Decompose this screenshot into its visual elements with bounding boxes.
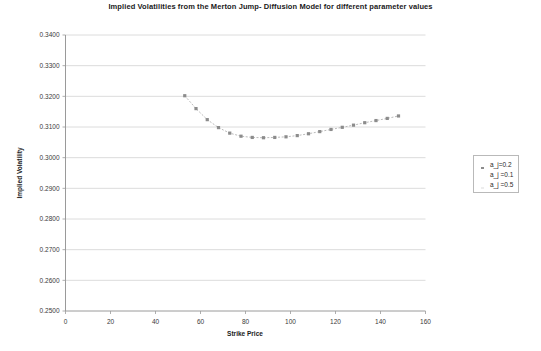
series-marker <box>386 117 389 120</box>
series-marker <box>217 126 220 129</box>
x-tick-label: 160 <box>420 318 431 325</box>
series-marker <box>352 124 355 127</box>
y-tick-label: 0.2700 <box>40 246 60 253</box>
series-marker <box>363 121 366 124</box>
series-marker <box>251 136 254 139</box>
data-series-group <box>183 94 400 139</box>
legend-marker-icon <box>477 175 488 193</box>
y-tick-label: 0.2500 <box>40 307 60 314</box>
y-tick-label: 0.3300 <box>40 62 60 69</box>
chart-legend: a_j=0.2a_j =0.1a_j =0.5 <box>473 155 519 193</box>
y-tick-label: 0.2600 <box>40 277 60 284</box>
series-line <box>185 96 399 138</box>
series-marker <box>206 118 209 121</box>
gridlines-group <box>66 35 426 280</box>
x-tick-label: 100 <box>285 318 296 325</box>
legend-item-label: a_j=0.2 <box>488 161 512 168</box>
y-tick-label: 0.3200 <box>40 93 60 100</box>
y-axis-ticks: 0.25000.26000.27000.28000.29000.30000.31… <box>40 31 66 314</box>
series-marker <box>273 136 276 139</box>
legend-item[interactable]: a_j =0.5 <box>477 179 513 189</box>
series-marker <box>397 114 400 117</box>
chart-container: Implied Volatilities from the Merton Jum… <box>0 0 541 351</box>
series-marker <box>329 128 332 131</box>
legend-item-label: a_j =0.5 <box>488 181 513 188</box>
y-tick-label: 0.3400 <box>40 31 60 38</box>
x-tick-label: 40 <box>152 318 160 325</box>
series-marker <box>239 135 242 138</box>
x-tick-label: 0 <box>64 318 68 325</box>
chart-plot-area: 0.25000.26000.27000.28000.29000.30000.31… <box>0 0 541 351</box>
series-marker <box>183 94 186 97</box>
x-tick-label: 80 <box>242 318 250 325</box>
y-tick-label: 0.2800 <box>40 215 60 222</box>
series-marker <box>341 126 344 129</box>
series-marker <box>194 107 197 110</box>
series-marker <box>318 130 321 133</box>
x-tick-label: 140 <box>375 318 386 325</box>
y-tick-label: 0.3000 <box>40 154 60 161</box>
x-axis-ticks: 020406080100120140160 <box>64 311 432 325</box>
x-tick-label: 20 <box>107 318 115 325</box>
series-marker <box>284 135 287 138</box>
y-tick-label: 0.3100 <box>40 123 60 130</box>
x-axis-title: Strike Price <box>227 330 263 337</box>
x-tick-label: 120 <box>330 318 341 325</box>
series-marker <box>296 134 299 137</box>
y-axis-title: Implied Volatility <box>16 147 24 199</box>
x-tick-label: 60 <box>197 318 205 325</box>
series-marker <box>262 136 265 139</box>
series-marker <box>374 119 377 122</box>
axes-group <box>66 35 426 311</box>
series-marker <box>228 132 231 135</box>
legend-item-label: a_j =0.1 <box>488 171 513 178</box>
series-marker <box>307 132 310 135</box>
y-tick-label: 0.2900 <box>40 185 60 192</box>
